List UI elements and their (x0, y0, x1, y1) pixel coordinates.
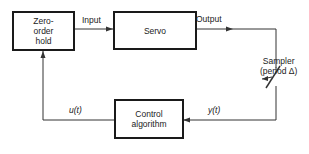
sampler-line-2: (period Δ) (260, 66, 297, 76)
y-signal-label: y(t) (208, 105, 220, 115)
zoh-line-2: order (33, 26, 53, 36)
zoh-line-1: Zero- (33, 16, 53, 26)
zero-order-hold-block: Zero- order hold (12, 11, 75, 51)
control-algorithm-block: Control algorithm (114, 99, 184, 139)
arrowhead-input (106, 27, 113, 32)
control-line-2: algorithm (132, 119, 167, 129)
sampler-line-1: Sampler (260, 56, 297, 66)
zoh-line-3: hold (33, 36, 53, 46)
control-line-1: Control (132, 109, 167, 119)
output-label: Output (196, 14, 222, 24)
sampler-label: Sampler (period Δ) (260, 56, 297, 76)
servo-label: Servo (144, 26, 166, 36)
servo-block: Servo (113, 11, 197, 50)
input-label: Input (82, 15, 101, 25)
u-signal-label: u(t) (69, 105, 82, 115)
